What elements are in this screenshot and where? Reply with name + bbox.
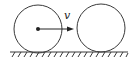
ground-surface — [10, 52, 128, 57]
stationary-ball — [77, 4, 125, 52]
collision-diagram: v — [0, 0, 138, 67]
velocity-label: v — [64, 9, 71, 22]
velocity-arrow-icon — [38, 27, 74, 32]
